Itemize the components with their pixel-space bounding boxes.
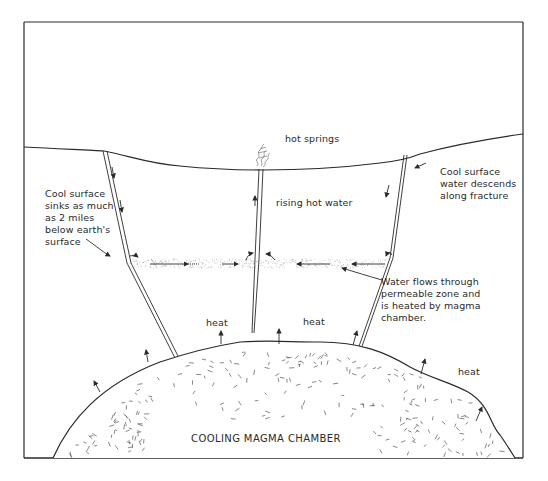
label-heat-1: heat bbox=[206, 317, 228, 329]
label-water-flows: Water flows through permeable zone and i… bbox=[381, 276, 481, 324]
zone-arrows bbox=[130, 252, 392, 264]
label-cool-surface-right: Cool surface water descends along fractu… bbox=[440, 166, 516, 202]
label-heat-2: heat bbox=[303, 316, 325, 328]
label-magma-chamber: COOLING MAGMA CHAMBER bbox=[191, 433, 341, 445]
ground-surface bbox=[24, 134, 523, 170]
diagram-canvas: hot springs rising hot water Cool surfac… bbox=[0, 0, 548, 481]
label-hot-springs: hot springs bbox=[285, 133, 339, 145]
left-fracture bbox=[103, 151, 179, 358]
label-cool-surface-left: Cool surface sinks as much as 2 miles be… bbox=[45, 188, 114, 248]
leader-lines bbox=[86, 163, 426, 280]
label-rising-hot-water: rising hot water bbox=[276, 197, 352, 209]
label-heat-3: heat bbox=[458, 366, 480, 378]
central-vent bbox=[252, 169, 263, 333]
permeable-zone bbox=[128, 259, 394, 269]
steam-plume bbox=[257, 144, 270, 167]
